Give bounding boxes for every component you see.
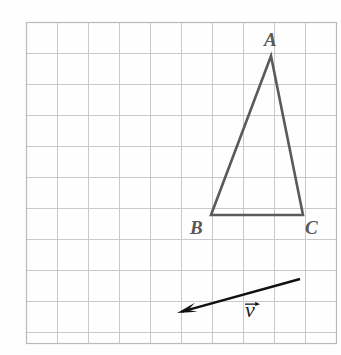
vertex-label-b: B <box>190 218 203 237</box>
triangle-abc <box>211 56 303 215</box>
translation-vector <box>177 279 300 313</box>
vector-shaft <box>182 279 300 312</box>
vector-label-nu: ν <box>245 299 255 321</box>
figure-canvas: A B C ν <box>0 0 341 355</box>
vertex-label-a: A <box>264 30 277 49</box>
grid-lines <box>26 22 337 344</box>
vertex-label-c: C <box>305 218 318 237</box>
nu-glyph-wrapper: ν <box>245 299 255 321</box>
figure-svg <box>0 0 341 355</box>
vector-overhead-arrow-icon <box>245 299 260 307</box>
